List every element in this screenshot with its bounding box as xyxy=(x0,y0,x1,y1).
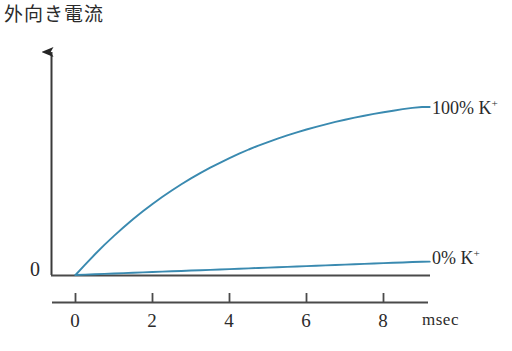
series-label-100-charge: + xyxy=(492,97,498,109)
curve-0-percent-k xyxy=(76,262,430,275)
series-label-0-percent-k: 0% K+ xyxy=(432,248,480,269)
x-tick-label-0: 0 xyxy=(70,310,80,332)
y-axis-label: 外向き電流 xyxy=(4,5,104,24)
y-axis-zero-label: 0 xyxy=(30,259,40,279)
x-axis-unit-label: msec xyxy=(422,311,459,328)
x-tick-label-6: 6 xyxy=(301,310,311,332)
x-axis-ticks xyxy=(76,293,384,303)
series-label-100-percent-k: 100% K+ xyxy=(432,98,498,119)
series-label-100-text: 100% K xyxy=(432,98,492,118)
chart-canvas xyxy=(0,0,512,351)
series-label-0-text: 0% K xyxy=(432,248,474,268)
x-tick-label-8: 8 xyxy=(378,310,388,332)
chart-figure: 外向き電流 0 0 2 4 6 8 msec 100% K+ 0% K+ xyxy=(0,0,512,351)
curve-100-percent-k xyxy=(76,107,430,275)
x-tick-label-2: 2 xyxy=(147,310,157,332)
x-tick-label-4: 4 xyxy=(224,310,234,332)
series-label-0-charge: + xyxy=(474,247,480,259)
